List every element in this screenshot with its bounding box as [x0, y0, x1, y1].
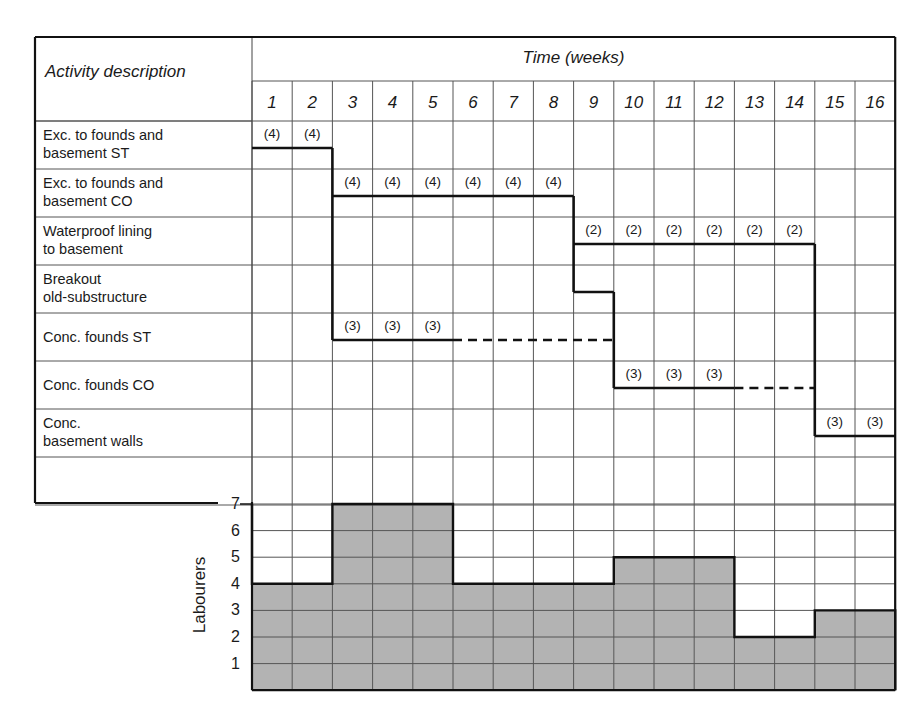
activity-label: Conc. founds CO: [43, 376, 248, 394]
week-label: 3: [332, 93, 372, 113]
resource-count-label: (3): [855, 414, 895, 429]
resource-count-label: (2): [574, 222, 614, 237]
resource-count-label: (3): [614, 366, 654, 381]
resource-count-label: (2): [734, 222, 774, 237]
week-label: 8: [533, 93, 573, 113]
week-label: 12: [694, 93, 734, 113]
resource-count-label: (4): [453, 174, 493, 189]
resource-count-label: (3): [694, 366, 734, 381]
activity-label: Exc. to founds and basement CO: [43, 174, 248, 210]
y-tick-label: 2: [222, 628, 240, 646]
y-tick-label: 6: [222, 522, 240, 540]
resource-count-label: (3): [654, 366, 694, 381]
week-label: 13: [734, 93, 774, 113]
week-label: 7: [493, 93, 533, 113]
week-label: 15: [815, 93, 855, 113]
resource-count-label: (3): [413, 318, 453, 333]
y-tick-label: 7: [222, 495, 240, 513]
y-tick-label: 1: [222, 655, 240, 673]
week-label: 4: [373, 93, 413, 113]
histogram-y-label: Labourers: [190, 535, 210, 655]
resource-count-label: (4): [292, 126, 332, 141]
week-label: 10: [614, 93, 654, 113]
week-label: 5: [413, 93, 453, 113]
activity-label: Waterproof lining to basement: [43, 222, 248, 258]
resource-count-label: (3): [373, 318, 413, 333]
y-tick-label: 3: [222, 601, 240, 619]
resource-count-label: (4): [533, 174, 573, 189]
activity-column-title: Activity description: [45, 62, 186, 82]
activity-label: Conc. basement walls: [43, 414, 248, 450]
time-axis-title: Time (weeks): [252, 48, 895, 68]
resource-count-label: (4): [413, 174, 453, 189]
activity-label: Conc. founds ST: [43, 328, 248, 346]
resource-count-label: (2): [614, 222, 654, 237]
resource-count-label: (2): [654, 222, 694, 237]
activity-label: Breakout old-substructure: [43, 270, 248, 306]
week-label: 11: [654, 93, 694, 113]
resource-count-label: (2): [775, 222, 815, 237]
resource-count-label: (2): [694, 222, 734, 237]
resource-count-label: (3): [815, 414, 855, 429]
resource-count-label: (3): [332, 318, 372, 333]
week-label: 6: [453, 93, 493, 113]
y-tick-label: 4: [222, 575, 240, 593]
week-label: 9: [574, 93, 614, 113]
week-label: 1: [252, 93, 292, 113]
activity-label: Exc. to founds and basement ST: [43, 126, 248, 162]
resource-count-label: (4): [332, 174, 372, 189]
week-label: 2: [292, 93, 332, 113]
resource-count-label: (4): [252, 126, 292, 141]
week-label: 14: [775, 93, 815, 113]
resource-count-label: (4): [493, 174, 533, 189]
resource-count-label: (4): [373, 174, 413, 189]
y-tick-label: 5: [222, 548, 240, 566]
week-label: 16: [855, 93, 895, 113]
